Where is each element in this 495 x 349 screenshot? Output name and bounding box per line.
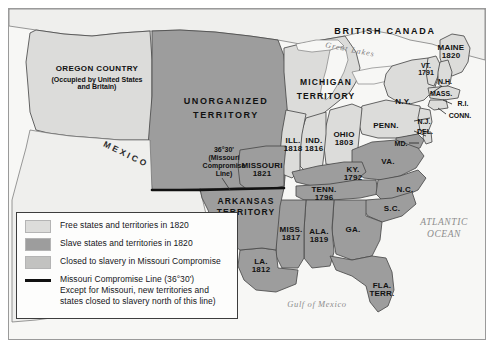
region-pennsylvania <box>358 100 422 138</box>
legend-line-text-1: Missouri Compromise Line (36°30') <box>60 274 216 285</box>
legend-line-text-2: Except for Missouri, new territories and <box>60 285 216 296</box>
region-massachusetts <box>428 86 460 100</box>
legend-row-free: Free states and territories in 1820 <box>25 220 229 233</box>
region-oregon-country <box>26 30 152 140</box>
legend-swatch-slave <box>25 238 51 251</box>
legend-row-compromise-line: Missouri Compromise Line (36°30') Except… <box>25 274 229 308</box>
legend-label-closed: Closed to slavery in Missouri Compromise <box>60 256 221 267</box>
legend-line-swatch <box>25 274 51 287</box>
legend-label-free: Free states and territories in 1820 <box>60 220 189 231</box>
legend-swatch-closed <box>25 256 51 269</box>
legend-row-slave: Slave states and territories in 1820 <box>25 238 229 251</box>
map-figure: BRITISH CANADA Great Lakes OREGON COUNTR… <box>0 0 495 349</box>
map-legend: Free states and territories in 1820 Slav… <box>16 212 238 319</box>
legend-row-closed: Closed to slavery in Missouri Compromise <box>25 256 229 269</box>
legend-label-compromise-line: Missouri Compromise Line (36°30') Except… <box>60 274 216 308</box>
region-alabama <box>304 200 334 268</box>
legend-swatch-free <box>25 220 51 233</box>
legend-line-text-3: states closed to slavery north of this l… <box>60 296 216 307</box>
legend-label-slave: Slave states and territories in 1820 <box>60 238 193 249</box>
region-mississippi <box>276 200 306 268</box>
region-missouri <box>238 146 286 190</box>
region-connecticut <box>428 100 448 110</box>
